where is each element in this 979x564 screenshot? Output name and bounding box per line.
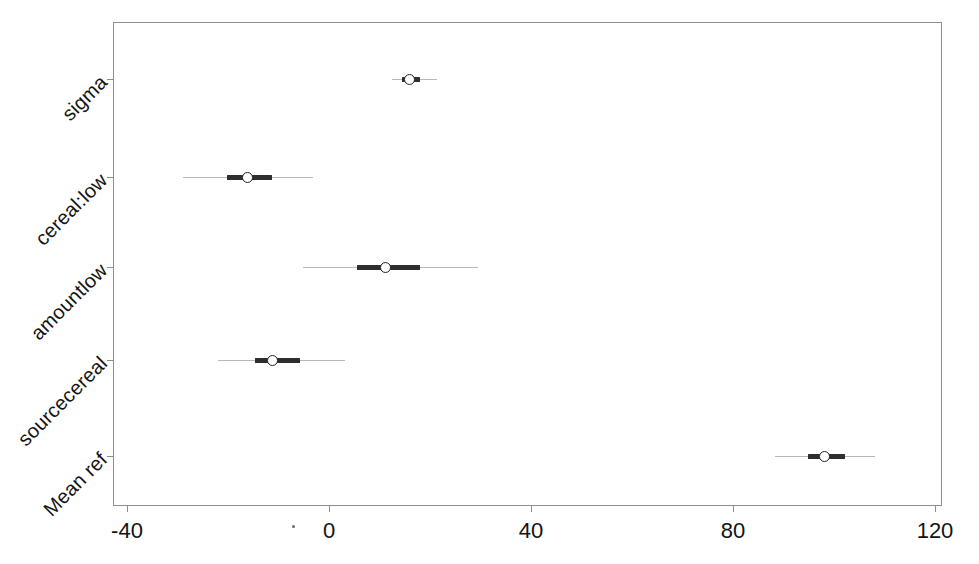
point-estimate-marker — [267, 355, 278, 366]
stray-speck — [292, 525, 295, 528]
x-axis-tick-label: 120 — [917, 518, 954, 544]
x-axis-tick-label: 80 — [721, 518, 745, 544]
x-axis-tick-label: 0 — [323, 518, 335, 544]
x-axis-tick — [935, 506, 936, 512]
y-axis-tick — [107, 456, 113, 457]
x-axis-tick — [329, 506, 330, 512]
x-axis-tick — [531, 506, 532, 512]
x-axis-tick-label: 40 — [519, 518, 543, 544]
x-axis-tick-label: -40 — [111, 518, 143, 544]
point-estimate-marker — [404, 74, 415, 85]
y-axis-tick — [107, 79, 113, 80]
x-axis-tick — [733, 506, 734, 512]
y-axis-tick — [107, 177, 113, 178]
plot-frame — [113, 22, 942, 506]
point-estimate-marker — [242, 172, 253, 183]
x-axis: -4004080120 — [113, 506, 942, 564]
x-axis-tick — [127, 506, 128, 512]
point-estimate-marker — [380, 262, 391, 273]
y-axis-tick — [107, 360, 113, 361]
y-axis-tick — [107, 267, 113, 268]
interval-dot-plot-figure: -4004080120 sigmacereal:lowamountlowsour… — [0, 0, 979, 564]
point-estimate-marker — [819, 451, 830, 462]
